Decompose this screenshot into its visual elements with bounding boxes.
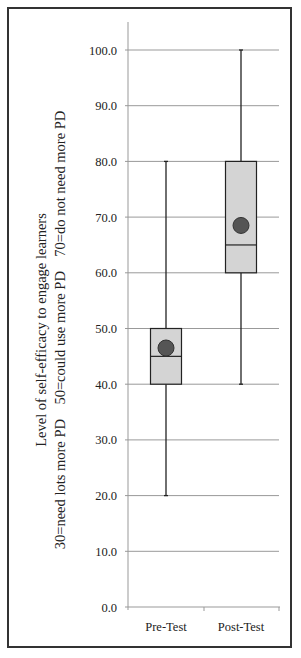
y-tick-label: 70.0: [95, 211, 117, 225]
y-tick-label: 80.0: [95, 155, 117, 169]
y-axis-label-scale: 30=need lots more PD 50=could use more P…: [52, 111, 68, 550]
box-pre-test: [151, 161, 182, 495]
y-tick-label: 10.0: [95, 545, 117, 559]
y-tick-labels: 0.010.020.030.040.050.060.070.080.090.01…: [89, 44, 117, 615]
x-category-labels: Pre-TestPost-Test: [145, 620, 264, 634]
y-tick-label: 0.0: [101, 601, 117, 615]
y-tick-label: 30.0: [95, 433, 117, 447]
x-category-label: Pre-Test: [145, 620, 187, 634]
x-category-label: Post-Test: [218, 620, 265, 634]
y-tick-label: 20.0: [95, 489, 117, 503]
y-tick-label: 60.0: [95, 266, 117, 280]
box-post-test: [226, 50, 257, 384]
gridlines: [125, 50, 279, 551]
y-tick-label: 90.0: [95, 99, 117, 113]
y-tick-label: 50.0: [95, 322, 117, 336]
boxplot-chart: 0.010.020.030.040.050.060.070.080.090.01…: [0, 0, 301, 658]
mean-marker: [158, 340, 174, 356]
y-axis-label: Level of self-efficacy to engage learner…: [33, 213, 49, 447]
y-tick-label: 100.0: [89, 44, 117, 58]
mean-marker: [233, 217, 249, 233]
y-tick-label: 40.0: [95, 378, 117, 392]
